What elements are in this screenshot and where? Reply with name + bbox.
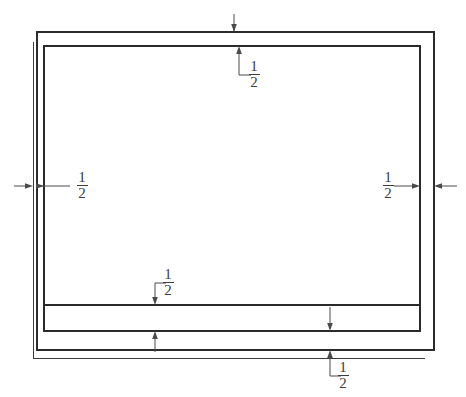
- dimension-label-bottom-outer-numerator: 1: [333, 361, 353, 374]
- dimension-label-bottom-inner: 1 2: [158, 268, 178, 297]
- dimension-label-top-numerator: 1: [244, 60, 264, 73]
- dim-bottom-inner-arrowhead: [152, 331, 158, 339]
- dimension-label-bottom-outer: 1 2: [333, 361, 353, 390]
- dim-left-inner-arrow-group: [36, 183, 70, 189]
- inner-rectangle: [44, 46, 420, 331]
- dimension-label-right-numerator: 1: [378, 171, 398, 184]
- dim-top-outer-arrowhead: [231, 24, 237, 32]
- dimension-label-right-denominator: 2: [378, 187, 398, 200]
- dimension-label-bottom-inner-denominator: 2: [158, 284, 178, 297]
- dim-right-outer-arrow-group: [434, 183, 457, 189]
- dim-top-outer-arrow-group: [231, 14, 237, 32]
- dim-right-inner-arrowhead: [412, 183, 420, 189]
- dimension-label-bottom-inner-numerator: 1: [158, 268, 178, 281]
- technical-drawing-canvas: 1 2 1 2 1 2 1 2 1 2: [0, 0, 466, 397]
- dim-bottom-right-inner-arrow-group: [327, 307, 333, 331]
- dim-left-outer-arrowhead: [25, 183, 33, 189]
- dimension-label-top: 1 2: [244, 60, 264, 89]
- dimension-label-bottom-outer-denominator: 2: [333, 377, 353, 390]
- dimension-label-left-numerator: 1: [72, 171, 92, 184]
- dim-bottom-inner-arrow-group: [152, 331, 158, 352]
- dimension-label-top-denominator: 2: [244, 76, 264, 89]
- dim-bottom-right-inner-arrowhead: [327, 323, 333, 331]
- dimension-label-right: 1 2: [378, 171, 398, 200]
- dim-top-inner-arrowhead: [236, 46, 242, 54]
- dim-bottom-band-arrowhead: [152, 297, 158, 305]
- outer-rectangle: [37, 32, 434, 350]
- dimension-label-left-denominator: 2: [72, 187, 92, 200]
- dim-right-outer-arrowhead: [434, 183, 442, 189]
- dim-bottom-outer-arrowhead: [327, 350, 333, 358]
- dimension-label-left: 1 2: [72, 171, 92, 200]
- dim-left-outer-arrow-group: [14, 183, 33, 189]
